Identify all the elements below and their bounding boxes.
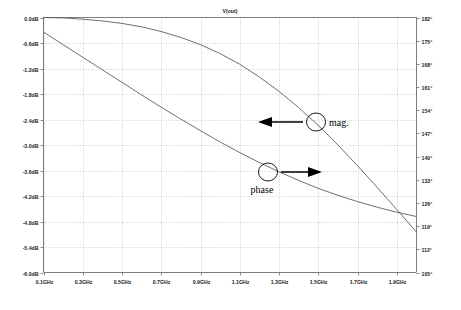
x-tick-label: 0.1GHz — [36, 279, 54, 285]
right-tick-label: 175° — [422, 39, 433, 45]
x-tick-label: 0.7GHz — [153, 279, 171, 285]
right-tick-label: 112° — [422, 247, 432, 253]
phase-annotation-label: phase — [251, 184, 274, 195]
x-tick-label: 0.3GHz — [75, 279, 93, 285]
left-tick-label: -3.0dB — [23, 143, 39, 149]
x-tick-label: 1.3GHz — [271, 279, 289, 285]
left-tick-label: -0.6dB — [23, 41, 39, 47]
right-tick-label: 154° — [422, 108, 433, 114]
left-tick-label: -4.2dB — [23, 194, 39, 200]
left-tick-label: -1.8dB — [23, 92, 39, 98]
left-tick-label: 0.0dB — [24, 16, 38, 22]
right-tick-label: 182° — [422, 16, 433, 22]
right-tick-label: 168° — [422, 62, 433, 68]
x-tick-label: 0.5GHz — [114, 279, 132, 285]
waveform-plot-panel: 0.0dB-0.6dB-1.2dB-1.8dB-2.4dB-3.0dB-3.6d… — [0, 0, 461, 310]
trace-title-label: V(out) — [223, 8, 238, 14]
x-tick-label: 1.7GHz — [350, 279, 368, 285]
left-tick-label: -6.0dB — [23, 271, 39, 277]
x-tick-label: 1.5GHz — [310, 279, 328, 285]
right-tick-label: 161° — [422, 85, 433, 91]
mag-annotation-label: mag. — [329, 117, 349, 128]
right-tick-label: 105° — [422, 271, 433, 277]
x-tick-label: 0.9GHz — [193, 279, 211, 285]
left-tick-label: -4.8dB — [23, 220, 39, 226]
plot-canvas: 0.0dB-0.6dB-1.2dB-1.8dB-2.4dB-3.0dB-3.6d… — [0, 0, 461, 310]
left-tick-label: -1.2dB — [23, 67, 39, 73]
left-tick-label: -2.4dB — [23, 118, 39, 124]
x-tick-label: 1.1GHz — [232, 279, 250, 285]
x-tick-label: 1.9GHz — [389, 279, 407, 285]
right-tick-label: 147° — [422, 131, 433, 137]
left-tick-label: -3.6dB — [23, 169, 39, 175]
right-tick-label: 140° — [422, 155, 433, 161]
right-tick-label: 133° — [422, 178, 433, 184]
left-tick-label: -5.4dB — [23, 245, 39, 251]
right-tick-label: 126° — [422, 201, 433, 207]
right-tick-label: 119° — [422, 224, 432, 230]
plot-background — [0, 0, 461, 310]
